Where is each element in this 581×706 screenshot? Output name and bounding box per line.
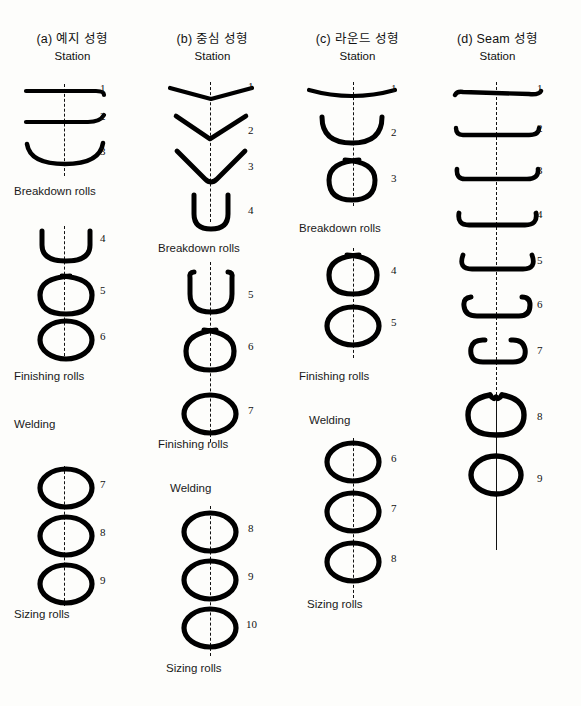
stage-label-c-breakdown: Breakdown rolls	[299, 222, 381, 234]
stage-label-c-finishing: Finishing rolls	[299, 370, 369, 382]
station-shape-b-7	[178, 392, 242, 436]
station-number-d-8: 8	[537, 410, 543, 422]
station-shape-b-3	[172, 148, 250, 188]
station-number-d-9: 9	[537, 472, 543, 484]
station-number-b-9: 9	[248, 570, 254, 582]
station-shape-d-5	[455, 252, 539, 278]
station-number-c-2: 2	[391, 126, 397, 138]
station-shape-d-8	[461, 388, 531, 440]
column-b: (b) 중심 성형 Station 1 2 3	[140, 0, 285, 706]
station-number-a-5: 5	[100, 284, 106, 296]
station-number-b-6: 6	[248, 340, 254, 352]
station-shape-b-6	[178, 326, 242, 374]
station-shape-c-6	[321, 440, 385, 484]
column-c: (c) 라운드 성형 Station 1 2 3 Breakdown rolls	[285, 0, 430, 706]
station-number-c-5: 5	[391, 316, 397, 328]
station-shape-d-1	[449, 86, 545, 104]
station-shape-b-5	[184, 268, 238, 318]
station-shape-b-4	[186, 192, 236, 234]
column-c-title: (c) 라운드 성형	[285, 28, 430, 47]
station-number-b-1: 1	[248, 80, 254, 92]
column-a-title: (a) 예지 성형	[0, 28, 145, 47]
station-number-a-7: 7	[100, 478, 106, 490]
station-number-b-8: 8	[248, 522, 254, 534]
stage-label-a-sizing: Sizing rolls	[14, 608, 70, 620]
station-number-a-3: 3	[100, 145, 106, 157]
station-number-c-4: 4	[391, 264, 397, 276]
stage-label-a-breakdown: Breakdown rolls	[14, 185, 96, 197]
station-number-c-6: 6	[391, 452, 397, 464]
column-d-station-heading: Station	[425, 50, 570, 62]
station-shape-b-9	[178, 558, 242, 602]
station-shape-c-7	[321, 490, 385, 534]
station-number-d-3: 3	[537, 164, 543, 176]
stage-label-b-finishing: Finishing rolls	[158, 438, 228, 450]
station-shape-a-5	[34, 272, 98, 318]
station-shape-d-2	[451, 124, 543, 144]
station-shape-a-1	[22, 85, 108, 101]
station-shape-d-4	[453, 210, 541, 234]
station-shape-b-1	[166, 84, 256, 106]
stage-label-c-sizing: Sizing rolls	[307, 598, 363, 610]
station-number-a-6: 6	[100, 330, 106, 342]
station-number-b-5: 5	[248, 288, 254, 300]
station-number-a-2: 2	[100, 110, 106, 122]
station-number-b-7: 7	[248, 404, 254, 416]
column-d: (d) Seam 성형 Station 1 2 3	[425, 0, 570, 706]
station-number-c-7: 7	[391, 502, 397, 514]
station-shape-d-3	[451, 166, 543, 188]
station-number-a-8: 8	[100, 526, 106, 538]
station-shape-a-9	[34, 562, 98, 606]
column-a-station-heading: Station	[0, 50, 145, 62]
stage-label-c-welding: Welding	[309, 414, 350, 426]
station-number-d-4: 4	[537, 208, 543, 220]
station-number-c-3: 3	[391, 172, 397, 184]
station-number-b-3: 3	[248, 160, 254, 172]
station-shape-a-4	[36, 228, 96, 268]
station-number-d-6: 6	[537, 298, 543, 310]
station-shape-c-4	[321, 250, 385, 298]
station-shape-a-8	[34, 514, 98, 558]
figure-sheet: (a) 예지 성형 Station 1 2 3 Breakdown rolls	[0, 0, 581, 706]
stage-label-b-breakdown: Breakdown rolls	[158, 242, 240, 254]
column-a: (a) 예지 성형 Station 1 2 3 Breakdown rolls	[0, 0, 145, 706]
station-number-c-1: 1	[391, 82, 397, 94]
column-b-station-heading: Station	[140, 50, 285, 62]
stage-label-a-welding: Welding	[14, 418, 55, 430]
stage-label-b-sizing: Sizing rolls	[166, 662, 222, 674]
column-b-title: (b) 중심 성형	[140, 28, 285, 47]
station-number-a-4: 4	[100, 232, 106, 244]
station-shape-d-6	[459, 294, 535, 324]
station-number-b-10: 10	[246, 618, 257, 630]
station-number-d-5: 5	[537, 254, 543, 266]
stage-label-a-finishing: Finishing rolls	[14, 370, 84, 382]
station-number-b-4: 4	[248, 204, 254, 216]
station-shape-c-1	[305, 86, 399, 104]
station-shape-d-7	[465, 336, 531, 370]
station-shape-a-6	[34, 318, 98, 362]
station-shape-b-2	[172, 112, 250, 144]
station-shape-c-2	[317, 112, 387, 148]
stage-label-b-welding: Welding	[170, 482, 211, 494]
station-shape-b-10	[178, 606, 242, 650]
station-shape-a-3	[22, 138, 108, 172]
station-shape-b-8	[178, 510, 242, 554]
station-shape-a-7	[34, 466, 98, 510]
station-number-a-1: 1	[100, 82, 106, 94]
station-shape-c-5	[321, 304, 385, 348]
station-shape-c-3	[323, 156, 381, 204]
station-number-d-7: 7	[537, 344, 543, 356]
station-number-d-2: 2	[537, 122, 543, 134]
station-shape-c-8	[321, 540, 385, 584]
station-number-b-2: 2	[248, 124, 254, 136]
station-number-a-9: 9	[100, 574, 106, 586]
column-d-title: (d) Seam 성형	[425, 28, 570, 47]
station-shape-d-9	[465, 452, 527, 498]
station-number-c-8: 8	[391, 552, 397, 564]
station-shape-a-2	[22, 112, 108, 130]
station-number-d-1: 1	[537, 82, 543, 94]
column-c-station-heading: Station	[285, 50, 430, 62]
